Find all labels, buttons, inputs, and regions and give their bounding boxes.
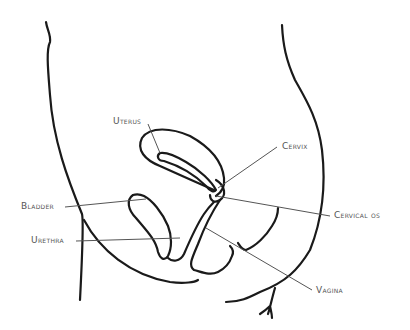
vulva-fold [260,288,275,318]
label-bladder: Bladder [21,202,54,211]
leader-cervical-os [216,196,330,216]
anatomy-diagram: Uterus Cervix Bladder Cervical os Urethr… [0,0,410,330]
leader-vagina [206,228,312,290]
uterus-shape [140,130,224,197]
label-vagina: Vagina [316,286,343,295]
urethra-shape [168,202,214,261]
leader-cervix [218,147,277,188]
label-cervix: Cervix [282,142,308,151]
uterine-cavity [158,153,216,192]
body-outline-left [46,22,83,300]
body-outline-right [226,25,324,302]
buttock-curve [84,220,198,283]
leader-uterus [148,124,160,153]
leader-urethra [76,238,180,241]
diagram-drawing [0,0,410,330]
rectum-curve [238,208,278,250]
label-uterus: Uterus [113,117,141,126]
bladder-shape [129,194,171,259]
label-urethra: Urethra [31,236,64,245]
vagina-shape [191,200,233,274]
label-cervical-os: Cervical os [334,211,380,220]
